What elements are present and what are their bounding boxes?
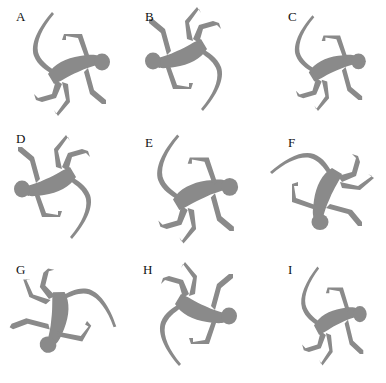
panel-label-c: C [288,10,297,23]
panel-g: G [0,253,128,380]
panel-label-i: I [288,263,292,276]
panel-label-g: G [16,263,25,276]
panel-label-h: H [143,263,152,276]
panel-e: E [129,126,257,253]
monkey-silhouette-f [258,126,386,253]
panel-i: I [258,253,386,380]
panel-c: C [258,0,386,127]
monkey-silhouette-c [258,0,386,127]
panel-label-b: B [145,10,154,23]
panel-f: F [258,126,386,253]
panel-h: H [129,253,257,380]
panel-b: B [129,0,257,127]
panel-label-f: F [288,136,295,149]
monkey-silhouette-i [258,253,386,380]
panel-label-d: D [16,132,25,145]
monkey-grid: A B C D E F G [0,0,386,383]
panel-a: A [0,0,128,127]
panel-label-a: A [16,10,25,23]
panel-label-e: E [145,136,153,149]
panel-d: D [0,126,128,253]
